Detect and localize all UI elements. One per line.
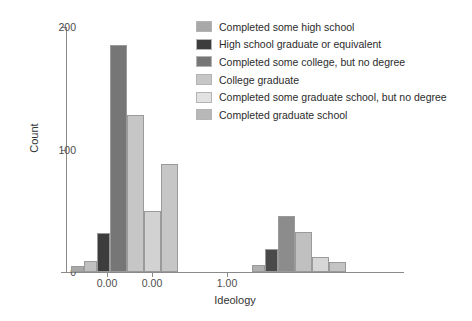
bar — [278, 216, 295, 272]
chart-legend: Completed some high schoolHigh school gr… — [196, 18, 468, 124]
bar — [97, 233, 110, 272]
bar — [252, 265, 265, 272]
x-axis-title: Ideology — [66, 294, 404, 306]
bar — [144, 211, 161, 272]
bar — [127, 115, 144, 272]
legend-item: Completed some graduate school, but no d… — [196, 88, 468, 106]
legend-label: Completed some college, but no degree — [219, 56, 405, 68]
legend-swatch — [196, 21, 212, 32]
x-tick-label: 0.00 — [84, 278, 130, 289]
bar — [161, 164, 178, 272]
legend-item: Completed graduate school — [196, 106, 468, 124]
legend-item: Completed some college, but no degree — [196, 53, 468, 71]
bar — [312, 257, 329, 272]
legend-swatch — [196, 109, 212, 120]
bar — [295, 232, 312, 272]
legend-label: College graduate — [219, 74, 299, 86]
x-tick-label: 1.00 — [204, 278, 250, 289]
bar — [71, 266, 84, 272]
bar — [84, 261, 97, 272]
legend-swatch — [196, 39, 212, 50]
legend-item: High school graduate or equivalent — [196, 36, 468, 54]
legend-item: College graduate — [196, 71, 468, 89]
bar — [110, 45, 127, 272]
bar-chart: 0100200 0.000.001.00 Count Ideology Comp… — [0, 0, 472, 321]
legend-label: Completed some high school — [219, 21, 354, 33]
legend-label: Completed some graduate school, but no d… — [219, 91, 447, 103]
x-tick-label: 0.00 — [129, 278, 175, 289]
y-axis-title: Count — [28, 98, 40, 178]
legend-swatch — [196, 92, 212, 103]
legend-label: Completed graduate school — [219, 109, 347, 121]
bar — [265, 249, 278, 272]
legend-swatch — [196, 56, 212, 67]
x-axis-line — [66, 272, 404, 273]
legend-label: High school graduate or equivalent — [219, 38, 381, 50]
legend-item: Completed some high school — [196, 18, 468, 36]
legend-swatch — [196, 74, 212, 85]
bar — [329, 262, 346, 272]
